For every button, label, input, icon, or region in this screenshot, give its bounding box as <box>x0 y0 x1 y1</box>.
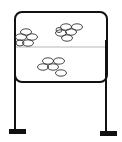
stand-diagram <box>0 0 122 142</box>
upper-right-cluster <box>56 24 83 41</box>
upper-left-cluster <box>16 29 38 46</box>
right-foot <box>100 131 117 136</box>
left-foot <box>9 129 26 134</box>
lower-cluster <box>38 58 67 76</box>
